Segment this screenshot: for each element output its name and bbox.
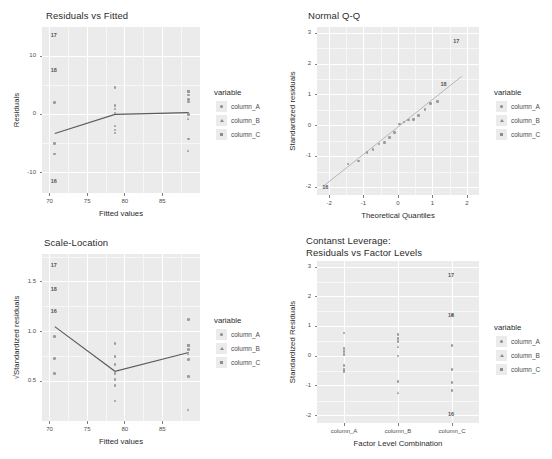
x-tick-label: 2 (445, 200, 489, 206)
legend-item-column_c[interactable]: column_C (496, 129, 540, 140)
data-point (114, 132, 117, 135)
point-label: 17 (51, 262, 57, 268)
x-tick-mark (162, 421, 163, 424)
x-tick-mark (432, 195, 433, 198)
data-point (114, 355, 117, 358)
y-tick-mark (40, 172, 43, 173)
data-point (412, 118, 415, 121)
plot-panel-scale-location: Scale-Location1718160.51.01.570758085Fit… (0, 228, 276, 459)
data-point (187, 348, 190, 351)
y-tick-mark (315, 415, 318, 416)
plot-panel-normal-qq: Normal Q-Q171816-2-10123-2-1012Theoretic… (276, 0, 552, 228)
data-point (451, 368, 454, 371)
data-point (451, 381, 454, 384)
legend-item-label: column_A (511, 103, 540, 110)
data-point (53, 372, 56, 375)
legend-title: variable (494, 323, 521, 332)
legend-item-label: column_C (231, 359, 260, 366)
legend-item-label: column_A (231, 103, 260, 110)
data-point (397, 345, 399, 348)
y-gridline (42, 331, 200, 332)
data-point (393, 131, 396, 134)
data-point (187, 101, 190, 104)
data-point (114, 342, 117, 345)
x-tick-mark (124, 421, 125, 424)
data-point (417, 114, 420, 117)
x-tick-mark (329, 195, 330, 198)
legend-item-column_a[interactable]: column_A (216, 329, 260, 340)
data-point (347, 163, 350, 166)
data-point (343, 370, 346, 373)
point-label: 16 (51, 308, 57, 314)
data-point (114, 363, 117, 366)
y-gridline (42, 114, 200, 115)
x-gridline (329, 27, 330, 195)
y-gridline (42, 56, 200, 57)
data-point (187, 344, 190, 347)
data-point (187, 113, 190, 116)
y-tick-mark (315, 94, 318, 95)
legend-item-column_b[interactable]: column_B (216, 343, 260, 354)
legend-item-column_a[interactable]: column_A (216, 101, 260, 112)
legend-item-column_c[interactable]: column_C (496, 364, 540, 375)
legend-item-label: column_B (511, 352, 540, 359)
legend-item-column_c[interactable]: column_C (216, 357, 260, 368)
point-label: 18 (441, 81, 447, 87)
trend-line (42, 254, 200, 421)
plot-title: Normal Q-Q (308, 10, 360, 22)
data-point (383, 141, 386, 144)
data-point (372, 148, 375, 151)
x-tick-label: column_B (376, 428, 420, 434)
plot-title: Contanst Leverage: Residuals vs Factor L… (306, 235, 422, 258)
data-point (187, 408, 189, 411)
plot-area: 171816 (317, 27, 479, 195)
x-gridline (452, 261, 453, 423)
data-point (53, 101, 56, 104)
x-gridline (344, 261, 345, 423)
data-point (53, 142, 56, 145)
point-label: 18 (51, 67, 57, 73)
x-axis-title: Theoretical Quantiles (317, 211, 479, 220)
x-axis-title: Fitted values (42, 437, 200, 446)
plot-title: Residuals vs Fitted (46, 10, 128, 22)
data-point (114, 400, 117, 403)
x-tick-mark (398, 423, 399, 426)
legend-item-label: column_B (231, 117, 260, 124)
plot-title: Scale-Location (44, 237, 108, 249)
data-point (397, 391, 399, 394)
plot-panel-constant-leverage: Contanst Leverage: Residuals vs Factor L… (276, 228, 552, 459)
point-label: 16 (51, 178, 57, 184)
x-tick-mark (49, 421, 50, 424)
x-tick-mark (363, 195, 364, 198)
data-point (187, 352, 189, 355)
x-gridline (162, 254, 163, 421)
x-tick-mark (162, 193, 163, 196)
point-label: 17 (448, 272, 454, 278)
legend-item-column_c[interactable]: column_C (216, 129, 260, 140)
y-axis-title: √Standardized residuals (12, 254, 21, 421)
legend-item-column_a[interactable]: column_A (496, 336, 540, 347)
data-point (53, 357, 56, 360)
legend-title: variable (494, 88, 521, 97)
square-marker-icon (216, 357, 227, 368)
y-axis-title: Standardized residuals (288, 27, 297, 195)
x-gridline (398, 27, 399, 195)
data-point (187, 375, 190, 378)
data-point (53, 335, 56, 338)
data-point (187, 94, 190, 97)
legend-item-column_b[interactable]: column_B (496, 115, 540, 126)
data-point (388, 136, 391, 139)
y-axis-title: Standardized Residuals (288, 261, 297, 423)
point-label: 17 (51, 32, 57, 38)
point-label: 16 (448, 411, 454, 417)
data-point (343, 364, 346, 367)
plot-panel-residuals-vs-fitted: Residuals vs Fitted171816-1001070758085F… (0, 0, 276, 228)
triangle-marker-icon (216, 115, 227, 126)
point-label: 18 (448, 312, 454, 318)
x-tick-mark (467, 195, 468, 198)
legend-item-column_b[interactable]: column_B (496, 350, 540, 361)
legend-item-column_a[interactable]: column_A (496, 101, 540, 112)
data-point (343, 332, 346, 335)
data-point (451, 389, 454, 392)
legend-item-column_b[interactable]: column_B (216, 115, 260, 126)
